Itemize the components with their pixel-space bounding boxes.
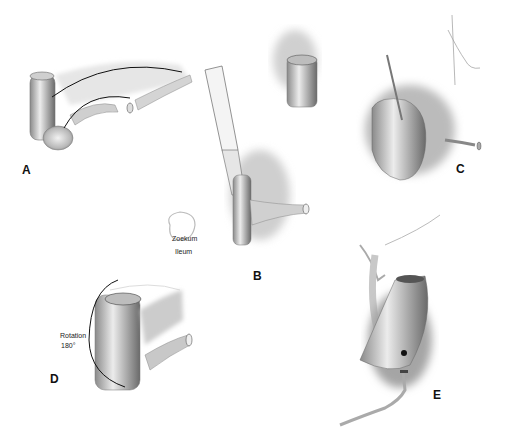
- panel-b-drawing: [205, 30, 317, 245]
- label-ileum: Ileum: [175, 247, 192, 256]
- label-rotation: Rotation: [60, 331, 86, 340]
- panel-a-drawing: [30, 62, 192, 150]
- panel-label-d: D: [50, 372, 59, 386]
- surgical-illustration-figure: A B C D E Zoekum Ileum Rotation 180°: [0, 0, 506, 439]
- panel-label-c: C: [456, 162, 465, 176]
- panel-label-e: E: [433, 388, 441, 402]
- panel-label-a: A: [22, 163, 31, 177]
- panel-label-b: B: [253, 269, 262, 283]
- panel-c-drawing: [365, 15, 481, 180]
- label-zoekum: Zoekum: [172, 234, 197, 243]
- illustration-drawing: [0, 0, 506, 439]
- label-rotation-degrees: 180°: [61, 341, 75, 350]
- panel-e-drawing: [340, 215, 440, 425]
